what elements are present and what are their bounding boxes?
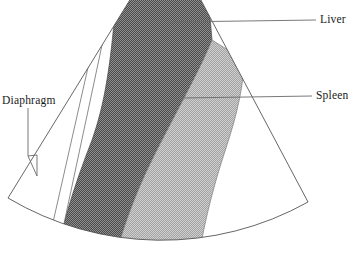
label-diaphragm: Diaphragm: [2, 95, 56, 107]
label-liver: Liver: [320, 14, 346, 26]
label-spleen: Spleen: [316, 90, 348, 102]
ultrasound-figure: Liver Spleen Diaphragm: [0, 0, 348, 267]
ultrasound-diagram-svg: [0, 0, 348, 267]
